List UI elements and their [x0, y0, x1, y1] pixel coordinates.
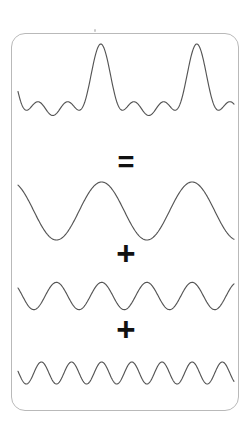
sine-component-2-line [18, 282, 234, 309]
sine-component-3-line [18, 362, 234, 384]
composite-waveform-line [18, 44, 234, 115]
image-speck-artifact [94, 29, 96, 32]
composite-waveform-row [12, 37, 239, 152]
composite-waveform-chart [12, 37, 239, 152]
sine-component-3-chart [12, 344, 239, 402]
wave-decomposition-card: = + + [11, 33, 239, 411]
equals-operator: = [12, 148, 239, 177]
plus-operator-2: + [12, 313, 239, 346]
sine-component-3-row [12, 344, 239, 402]
plus-operator-1: + [12, 237, 239, 270]
sine-component-1-line [18, 182, 234, 240]
